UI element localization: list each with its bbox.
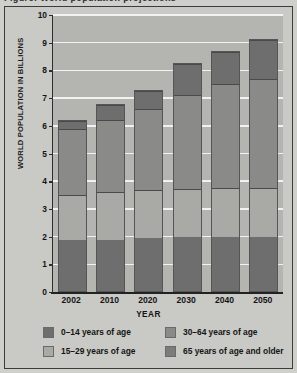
bar-2020[interactable] <box>134 90 163 292</box>
x-axis-title: YEAR <box>5 310 292 319</box>
legend-item[interactable]: 30–64 years of age <box>165 325 258 339</box>
bar-segment-2030-s1 <box>174 189 201 237</box>
bar-segment-2050-s2 <box>250 79 277 188</box>
bar-segment-2050-s3 <box>250 40 277 80</box>
bar-2030[interactable] <box>173 63 202 292</box>
y-tick-4: 4 <box>23 176 47 186</box>
legend-swatch-icon <box>43 346 54 357</box>
bar-2050[interactable] <box>249 39 278 292</box>
y-tick-7: 7 <box>23 93 47 103</box>
bar-segment-2050-s0 <box>250 237 277 291</box>
y-tick-9: 9 <box>23 38 47 48</box>
y-tickmark-9 <box>49 43 53 44</box>
legend-label: 30–64 years of age <box>183 327 258 337</box>
y-tick-2: 2 <box>23 232 47 242</box>
bar-segment-2002-s1 <box>59 195 86 240</box>
legend-label: 0–14 years of age <box>61 327 131 337</box>
y-tick-6: 6 <box>23 121 47 131</box>
legend-swatch-icon <box>43 327 54 338</box>
bar-2010[interactable] <box>96 104 125 292</box>
bar-segment-2010-s1 <box>97 192 124 240</box>
bar-segment-2040-s2 <box>212 84 239 188</box>
bar-segment-2020-s3 <box>135 91 162 109</box>
bar-segment-2002-s3 <box>59 121 86 129</box>
x-tick-2050: 2050 <box>243 295 283 305</box>
bar-segment-2040-s1 <box>212 188 239 237</box>
bar-segment-2030-s2 <box>174 95 201 190</box>
bar-segment-2030-s3 <box>174 64 201 94</box>
gridline-10 <box>53 14 283 16</box>
chart-figure: WORLD POPULATION IN BILLIONS 01234567891… <box>4 6 293 369</box>
x-tick-2030: 2030 <box>166 295 206 305</box>
chart-legend: 0–14 years of age15–29 years of age30–64… <box>15 325 282 365</box>
x-tick-2040: 2040 <box>205 295 245 305</box>
y-tickmark-8 <box>49 70 53 71</box>
bar-segment-2010-s3 <box>97 105 124 120</box>
legend-swatch-icon <box>165 346 176 357</box>
legend-label: 15–29 years of age <box>61 346 136 356</box>
y-tickmark-0 <box>49 292 53 293</box>
y-tick-10: 10 <box>23 10 47 20</box>
legend-label: 65 years of age and older <box>183 346 284 356</box>
x-axis-tick-labels: 200220102020203020402050 <box>52 295 282 309</box>
scan-artifact-label: Figure: World population projections <box>4 0 297 1</box>
bar-segment-2010-s2 <box>97 120 124 193</box>
y-tickmark-3 <box>49 209 53 210</box>
y-tick-3: 3 <box>23 204 47 214</box>
x-tick-2002: 2002 <box>51 295 91 305</box>
legend-swatch-icon <box>165 327 176 338</box>
bar-segment-2050-s1 <box>250 188 277 237</box>
y-tick-0: 0 <box>23 287 47 297</box>
y-tick-1: 1 <box>23 259 47 269</box>
y-tick-8: 8 <box>23 65 47 75</box>
bar-2002[interactable] <box>58 120 87 292</box>
plot-wrapper: WORLD POPULATION IN BILLIONS 01234567891… <box>5 7 292 307</box>
bar-2040[interactable] <box>211 51 240 292</box>
x-tick-2020: 2020 <box>128 295 168 305</box>
bar-segment-2020-s2 <box>135 109 162 190</box>
bar-segment-2002-s2 <box>59 129 86 195</box>
bar-segment-2002-s0 <box>59 240 86 291</box>
y-tickmark-6 <box>49 126 53 127</box>
plot-area <box>52 15 283 292</box>
bar-segment-2020-s1 <box>135 190 162 238</box>
y-tickmark-4 <box>49 181 53 182</box>
x-tick-2010: 2010 <box>90 295 130 305</box>
bar-segment-2040-s3 <box>212 52 239 84</box>
y-tickmark-5 <box>49 154 53 155</box>
x-axis-line <box>51 292 283 294</box>
y-tickmark-2 <box>49 237 53 238</box>
y-tickmark-7 <box>49 98 53 99</box>
bar-segment-2040-s0 <box>212 237 239 291</box>
bar-segment-2010-s0 <box>97 240 124 291</box>
legend-item[interactable]: 15–29 years of age <box>43 344 136 358</box>
bar-segment-2030-s0 <box>174 237 201 291</box>
y-tick-5: 5 <box>23 149 47 159</box>
y-tickmark-10 <box>49 15 53 16</box>
bar-segment-2020-s0 <box>135 238 162 291</box>
legend-item[interactable]: 65 years of age and older <box>165 344 284 358</box>
y-axis-tick-labels: 012345678910 <box>23 15 47 293</box>
legend-item[interactable]: 0–14 years of age <box>43 325 131 339</box>
y-tickmark-1 <box>49 264 53 265</box>
